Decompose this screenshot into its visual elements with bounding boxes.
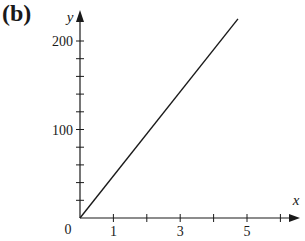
x-tick-label: 3 xyxy=(177,224,184,239)
data-series xyxy=(80,19,238,218)
x-tick-label: 5 xyxy=(244,224,251,239)
x-tick-label: 1 xyxy=(110,224,117,239)
axes: 1351002000xy xyxy=(52,9,300,239)
y-axis-arrow-icon xyxy=(76,10,84,22)
data-line xyxy=(80,19,238,218)
y-axis-label: y xyxy=(65,9,74,25)
y-tick-label: 200 xyxy=(52,34,73,49)
x-axis-arrow-icon xyxy=(289,214,300,222)
origin-label: 0 xyxy=(65,222,72,237)
y-tick-label: 100 xyxy=(52,123,73,138)
x-axis-label: x xyxy=(292,192,300,208)
line-chart: 1351002000xy xyxy=(0,0,305,241)
